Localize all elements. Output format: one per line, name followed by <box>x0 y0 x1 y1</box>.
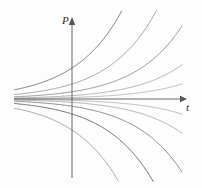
vertical-axis-label-P: P <box>62 15 69 26</box>
solution-curve <box>15 100 182 133</box>
solution-curves-group <box>15 11 182 182</box>
solution-curve <box>15 11 157 95</box>
vertical-axis-arrowhead <box>69 17 75 25</box>
solution-curve <box>15 108 119 181</box>
solution-curve <box>15 101 182 172</box>
solution-curve <box>15 26 182 97</box>
solution-curve <box>15 103 154 181</box>
exponential-solution-curves-figure: P t <box>0 0 202 188</box>
horizontal-axis-label-t: t <box>186 102 189 113</box>
solution-curve <box>15 65 182 98</box>
plot-canvas <box>0 0 202 188</box>
